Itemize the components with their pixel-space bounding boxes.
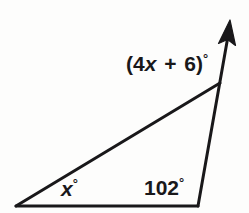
exterior-angle-variable: x — [145, 52, 157, 75]
exterior-angle-constant: 6 — [184, 52, 196, 75]
exterior-angle-open-paren: ( — [126, 52, 133, 75]
triangle-diagram — [0, 0, 249, 213]
exterior-angle-degree-symbol: ° — [203, 51, 208, 66]
interior-angle-label: 102° — [144, 176, 184, 198]
exterior-angle-close-paren: ) — [196, 52, 203, 75]
exterior-angle-coefficient: 4 — [133, 52, 145, 75]
left-angle-label: x° — [61, 177, 78, 199]
left-angle-variable: x — [61, 177, 73, 200]
triangle-hypotenuse-line — [16, 83, 220, 206]
exterior-angle-plus-sign: + — [164, 52, 176, 75]
exterior-angle-label: (4x + 6)° — [126, 52, 208, 74]
geometry-figure: (4x + 6)° x° 102° — [0, 0, 249, 213]
interior-angle-value: 102 — [144, 176, 179, 199]
left-angle-degree-symbol: ° — [73, 176, 78, 191]
interior-angle-degree-symbol: ° — [179, 175, 184, 190]
